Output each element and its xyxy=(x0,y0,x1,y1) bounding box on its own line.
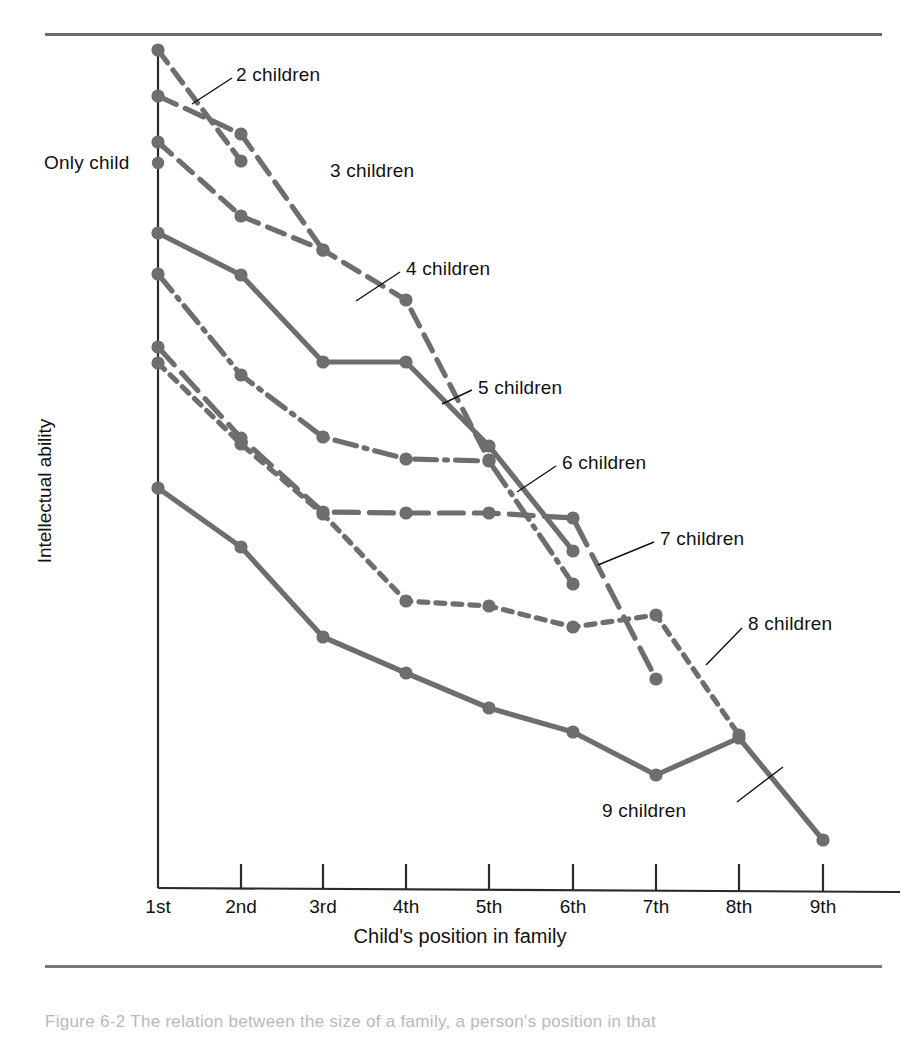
marker-5-children xyxy=(234,268,247,281)
marker-9-children xyxy=(482,701,495,714)
marker-7-children xyxy=(649,672,662,685)
marker-8-children xyxy=(566,620,579,633)
bottom-rule xyxy=(45,965,882,968)
marker-6-children xyxy=(399,452,412,465)
annotation-7-children: 7 children xyxy=(660,528,744,550)
x-tick-label-8th: 8th xyxy=(726,896,752,918)
marker-7-children xyxy=(151,340,164,353)
marker-8-children xyxy=(316,507,329,520)
x-tick-label-7th: 7th xyxy=(643,896,669,918)
x-tick-label-1st: 1st xyxy=(145,896,170,918)
marker-8-children xyxy=(649,608,662,621)
marker-6-children xyxy=(566,577,579,590)
annotation-6-children: 6 children xyxy=(562,452,646,474)
x-tick-label-5th: 5th xyxy=(476,896,502,918)
x-tick-label-4th: 4th xyxy=(393,896,419,918)
y-axis-title: Intellectual ability xyxy=(34,341,56,641)
x-axis-title: Child's position in family xyxy=(0,925,920,948)
x-tick-label-9th: 9th xyxy=(810,896,836,918)
x-tick-label-3rd: 3rd xyxy=(309,896,336,918)
marker-5-children xyxy=(566,544,579,557)
marker-6-children xyxy=(234,368,247,381)
marker-8-children xyxy=(482,599,495,612)
marker-9-children xyxy=(566,725,579,738)
marker-4-children xyxy=(151,135,164,148)
annotation-3-children: 3 children xyxy=(330,160,414,182)
series-line-6-children xyxy=(158,274,573,584)
marker-5-children xyxy=(151,226,164,239)
marker-4-children xyxy=(399,293,412,306)
marker-9-children xyxy=(234,540,247,553)
marker-9-children xyxy=(399,666,412,679)
marker-only-child xyxy=(152,157,164,169)
annotation-5-children: 5 children xyxy=(478,377,562,399)
leader-2-children xyxy=(192,78,232,104)
annotation-only-child: Only child xyxy=(44,152,129,174)
series-markers xyxy=(151,43,829,846)
marker-7-children xyxy=(399,506,412,519)
marker-4-children xyxy=(316,243,329,256)
marker-2-children xyxy=(234,154,247,167)
chart-plot-area xyxy=(0,0,920,1039)
figure-panel: Only child 2 children 3 children 4 child… xyxy=(0,0,920,1039)
marker-2-children xyxy=(151,43,164,56)
figure-caption: Figure 6-2 The relation between the size… xyxy=(45,1012,885,1032)
leader-6-children xyxy=(517,466,556,492)
marker-3-children xyxy=(234,127,247,140)
marker-6-children xyxy=(482,454,495,467)
leader-4-children xyxy=(356,272,400,301)
marker-3-children xyxy=(151,89,164,102)
marker-8-children xyxy=(151,356,164,369)
leader-7-children xyxy=(598,542,654,565)
marker-4-children xyxy=(234,209,247,222)
marker-9-children xyxy=(151,481,164,494)
marker-9-children xyxy=(649,768,662,781)
marker-5-children xyxy=(482,439,495,452)
marker-9-children xyxy=(732,731,745,744)
series-line-2-children xyxy=(158,50,241,161)
marker-8-children xyxy=(399,594,412,607)
marker-6-children xyxy=(151,267,164,280)
x-tick-label-6th: 6th xyxy=(560,896,586,918)
leader-8-children xyxy=(706,628,742,665)
x-axis-ticks xyxy=(158,864,823,891)
annotation-2-children: 2 children xyxy=(236,64,320,86)
marker-8-children xyxy=(234,437,247,450)
marker-9-children xyxy=(316,630,329,643)
marker-5-children xyxy=(399,355,412,368)
marker-5-children xyxy=(316,355,329,368)
annotation-4-children: 4 children xyxy=(406,258,490,280)
marker-6-children xyxy=(316,430,329,443)
annotation-9-children: 9 children xyxy=(602,800,686,822)
x-tick-label-2nd: 2nd xyxy=(225,896,257,918)
marker-7-children xyxy=(566,511,579,524)
x-axis-line xyxy=(158,888,900,892)
marker-7-children xyxy=(482,506,495,519)
marker-9-children xyxy=(816,833,829,846)
series-line-3-children xyxy=(158,96,323,250)
annotation-8-children: 8 children xyxy=(748,613,832,635)
